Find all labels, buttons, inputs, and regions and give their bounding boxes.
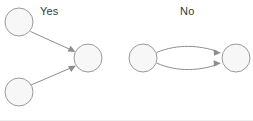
node-middle[interactable] — [74, 44, 102, 72]
baseline-rule — [0, 120, 253, 121]
node-bottom-left[interactable] — [5, 78, 33, 106]
edge-d-to-e-upper-arrowhead — [214, 50, 221, 56]
edge-c-to-b — [31, 66, 76, 85]
edge-a-to-b — [31, 32, 76, 53]
edge-d-to-e-lower — [157, 60, 222, 69]
edge-c-to-b-line — [31, 67, 73, 85]
figure-canvas: Yes No — [0, 0, 253, 121]
node-right[interactable] — [222, 44, 250, 72]
graph-drawing — [0, 0, 253, 121]
panel-yes-edges — [31, 32, 77, 86]
node-top-left[interactable] — [5, 8, 33, 36]
edge-d-to-e-upper-line — [157, 46, 218, 52]
edge-a-to-b-line — [31, 32, 73, 51]
panel-no-edges — [157, 46, 222, 69]
panel-no-nodes — [129, 44, 250, 72]
node-left[interactable] — [129, 44, 157, 72]
edge-d-to-e-lower-arrowhead — [214, 60, 221, 66]
edge-d-to-e-lower-line — [157, 63, 218, 70]
panel-yes-nodes — [5, 8, 102, 106]
edge-d-to-e-upper — [157, 46, 222, 55]
